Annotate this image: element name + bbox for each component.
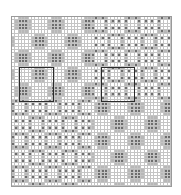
pattern-grid bbox=[11, 16, 172, 187]
grid-cell bbox=[168, 183, 171, 186]
